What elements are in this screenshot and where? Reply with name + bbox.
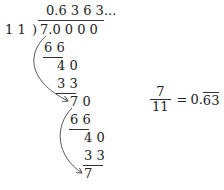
repeating-digits: 63	[203, 92, 220, 108]
fraction-denominator: 11	[150, 99, 171, 114]
fraction: 7 11	[150, 85, 171, 114]
equals-sign: =	[177, 92, 188, 107]
arrow-icon	[60, 108, 82, 173]
decimal-whole: 0.	[190, 92, 202, 107]
arrow-icon	[34, 36, 68, 101]
result-equation: 7 11 = 0.63	[150, 85, 219, 114]
fraction-numerator: 7	[154, 85, 166, 99]
